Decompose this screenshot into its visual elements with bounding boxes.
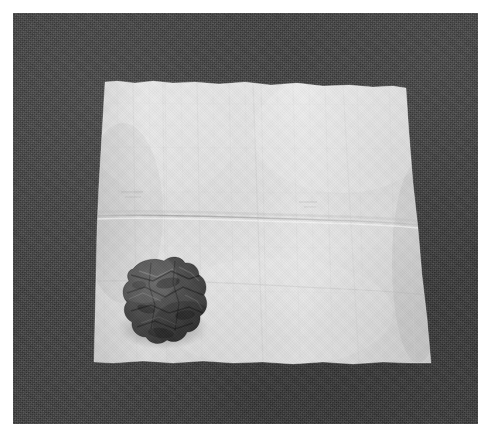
napkin-edge <box>94 81 431 364</box>
backdrop-weave-texture <box>13 13 478 424</box>
image-caption: A light gray square paper napkin laid fl… <box>0 0 1 1</box>
film-grain-overlay <box>13 13 478 424</box>
clay-object <box>13 13 478 424</box>
clay-body <box>123 257 207 343</box>
napkin-fold-crease <box>96 211 419 228</box>
napkin-surface-marks <box>121 191 317 208</box>
napkin-weave-texture <box>83 73 444 368</box>
clay-contact-shadow <box>117 309 209 349</box>
photograph: A light gray square paper napkin laid fl… <box>0 0 492 438</box>
backdrop-diagonal-texture <box>13 13 478 424</box>
napkin <box>13 13 478 424</box>
napkin-body <box>94 81 431 364</box>
clay-facets <box>109 251 217 349</box>
backdrop-surface <box>13 13 478 424</box>
clay-outline <box>123 257 207 343</box>
backdrop-lighting-gradient <box>13 13 478 424</box>
